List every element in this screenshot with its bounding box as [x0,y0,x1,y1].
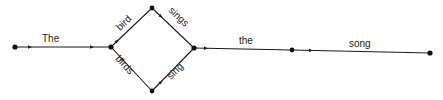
node-split [108,44,113,49]
node-start [12,44,17,49]
edge-label-the: The [42,33,60,44]
word-network-diagram: The bird birds sings sing the song [0,0,443,100]
edge-the-lower [194,48,292,50]
arrow-icon-song [309,49,313,52]
arrow-icon-the-end [90,45,94,48]
edge-label-the-lower: the [239,35,253,46]
node-end [427,50,432,55]
node-bottom [150,89,155,94]
node-top [150,6,155,11]
edge-label-song: song [349,38,371,49]
edge-label-sing: sing [165,61,186,82]
arrow-icon-the-start [28,45,32,48]
node-merge [191,45,196,50]
arrow-icon-the-lower [204,47,208,50]
edge-label-birds: birds [114,53,137,76]
node-middle [290,48,295,53]
edge-label-bird: bird [114,13,134,32]
